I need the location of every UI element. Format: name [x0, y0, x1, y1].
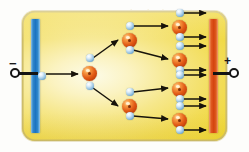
electron [176, 9, 184, 17]
electron [176, 33, 184, 41]
positive-ion [82, 66, 97, 81]
electron [86, 54, 94, 62]
electron [86, 82, 94, 90]
electron [126, 88, 134, 96]
ion-highlight [176, 85, 181, 89]
electron [176, 102, 184, 110]
gas-chamber [22, 11, 227, 141]
positive-polarity-sign: + [224, 55, 231, 67]
ionization-avalanche-figure: ionizationthe electrons areions and thea… [0, 0, 249, 152]
electron [176, 126, 184, 134]
electron [176, 42, 184, 50]
negative-polarity-sign: − [9, 57, 17, 70]
electron [38, 72, 46, 80]
ion-highlight [126, 102, 131, 106]
ion-highlight [176, 56, 181, 60]
ion-highlight [176, 23, 181, 27]
ion-highlight [176, 116, 181, 120]
electron [126, 46, 134, 54]
electron [126, 112, 134, 120]
positive-terminal[interactable] [229, 68, 239, 78]
ion-highlight [126, 36, 131, 40]
anode-plate [209, 19, 218, 133]
cathode-lead-wire [18, 72, 38, 75]
chamber-sheen [22, 11, 227, 141]
ion-highlight [86, 69, 91, 73]
electron [126, 22, 134, 30]
electron [176, 71, 184, 79]
